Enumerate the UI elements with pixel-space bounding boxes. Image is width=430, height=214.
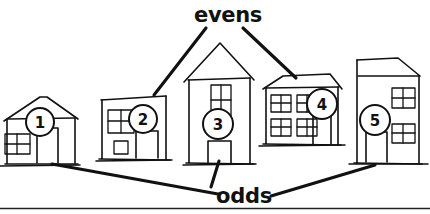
odds-label: odds [216,184,272,208]
house-4-window-bottom-right [297,119,317,136]
house-3-roof [184,43,254,82]
house-2-door [136,131,158,158]
house-1: 1 [4,97,78,164]
house-4: 4 [263,74,342,145]
ground-line-house-2 [96,160,172,161]
house-4-eave-line [265,87,339,88]
house-4-number-label: 4 [317,96,327,114]
house-4-window-bottom-left [271,119,291,136]
house-5-roof [357,58,420,76]
house-5-window-upper [392,88,415,108]
house-1-number-label: 1 [35,114,45,132]
house-2-number-label: 2 [138,111,148,129]
house-5-number-label: 5 [370,112,380,130]
house-2-window-lower [114,141,128,154]
leader-odds-to-house-1 [52,164,218,194]
street-illustration: 1 2 3 [0,0,430,214]
leader-odds-to-house-5 [271,165,375,196]
house-4-window-top-left [271,95,291,112]
house-3-eave-line [188,78,250,80]
house-5-door [366,132,387,162]
house-numbering-diagram: 1 2 3 [0,0,430,214]
house-1-window [5,134,30,154]
leader-evens-to-house-2 [154,28,206,95]
ground-line-house-4 [259,145,345,146]
house-3: 3 [184,43,254,164]
house-5: 5 [354,58,422,164]
house-2-roof [101,96,166,100]
house-2: 2 [99,96,170,160]
leader-evens-to-house-4 [243,28,296,78]
house-3-number-label: 3 [213,116,223,134]
evens-label: evens [194,3,262,27]
house-5-window-lower [392,124,415,143]
